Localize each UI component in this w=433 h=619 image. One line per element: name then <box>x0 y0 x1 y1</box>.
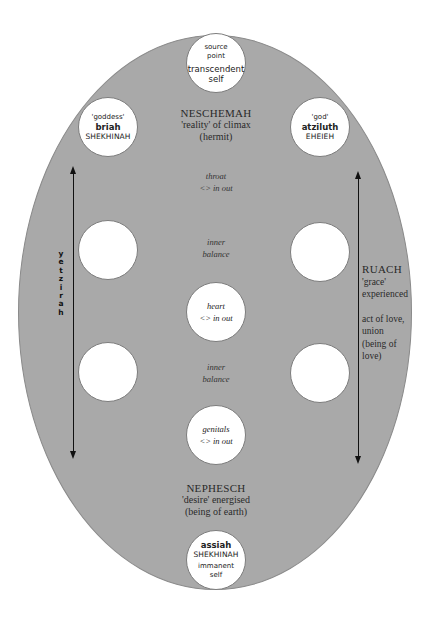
node-atziluth: 'god' atziluth EHEIEH <box>290 97 350 157</box>
tree-of-life-diagram: source point transcendent self 'goddess'… <box>0 0 433 619</box>
node-text: 'goddess' <box>91 113 124 122</box>
label-text: (being of earth) <box>156 506 276 518</box>
node-text: briah <box>96 122 121 132</box>
node-text: point <box>207 52 225 61</box>
node-text: genitals <box>203 423 230 435</box>
arrow-head-down-icon <box>355 456 361 464</box>
label-nephesch: NEPHESCH 'desire' energised (being of ea… <box>156 482 276 518</box>
node-text: source <box>204 43 227 52</box>
node-heart: heart <> in out <box>186 282 246 342</box>
node-text: transcendent <box>188 64 245 74</box>
label-text: balance <box>176 373 256 385</box>
label-text: 'reality' of climax <box>156 119 276 131</box>
label-text: balance <box>176 248 256 260</box>
label-yetzirah: y e t z i r a h <box>57 250 65 317</box>
arrow-head-down-icon <box>70 451 76 459</box>
label-text: inner <box>176 236 256 248</box>
node-text: <> in out <box>199 435 232 447</box>
node-text: EHEIEH <box>306 132 334 141</box>
label-inner-balance-upper: inner balance <box>176 236 256 260</box>
label-text: experienced <box>362 288 432 301</box>
node-text: heart <box>207 300 225 312</box>
label-ruach: RUACH 'grace' experienced act of love, u… <box>362 263 432 363</box>
label-text: <> in out <box>176 182 256 194</box>
label-text: union <box>362 325 432 338</box>
node-text: SHEKHINAH <box>193 550 238 559</box>
label-title: NEPHESCH <box>156 482 276 494</box>
letter: h <box>58 309 63 317</box>
label-text: inner <box>176 361 256 373</box>
label-title: NESCHEMAH <box>156 107 276 119</box>
label-text: throat <box>176 170 256 182</box>
node-genitals: genitals <> in out <box>186 405 246 465</box>
label-text: love) <box>362 350 432 363</box>
arrow-line <box>358 177 360 457</box>
node-lower-left <box>78 342 138 402</box>
node-assiah: assiah SHEKHINAH immanent self <box>186 530 246 590</box>
node-text: self <box>208 74 223 84</box>
label-text: 'grace' <box>362 276 432 289</box>
node-text: immanent <box>198 562 234 571</box>
node-text: atziluth <box>302 122 339 132</box>
node-middle-right <box>290 222 350 282</box>
node-lower-right <box>290 343 350 403</box>
node-middle-left <box>78 220 138 280</box>
node-source-point: source point transcendent self <box>186 33 246 93</box>
label-inner-balance-lower: inner balance <box>176 361 256 385</box>
node-briah: 'goddess' briah SHEKHINAH <box>78 97 138 157</box>
label-throat: throat <> in out <box>176 170 256 194</box>
label-text: (being of <box>362 338 432 351</box>
label-title: RUACH <box>362 263 432 276</box>
arrow-line <box>73 172 75 452</box>
label-text: 'desire' energised <box>156 494 276 506</box>
node-text: self <box>210 571 222 580</box>
label-neschemah: NESCHEMAH 'reality' of climax (hermit) <box>156 107 276 143</box>
node-text: SHEKHINAH <box>85 132 130 141</box>
node-text: assiah <box>201 540 232 550</box>
label-text: act of love, <box>362 313 432 326</box>
node-text: <> in out <box>199 312 232 324</box>
node-text: 'god' <box>311 113 328 122</box>
label-text: (hermit) <box>156 131 276 143</box>
